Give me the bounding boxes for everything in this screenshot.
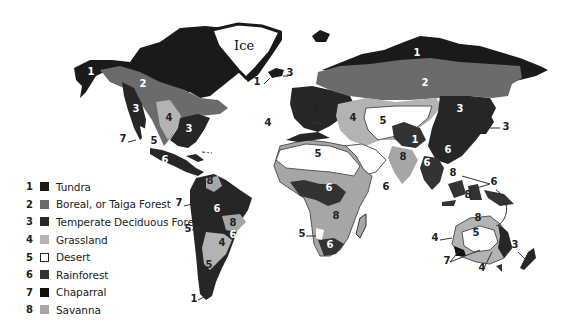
legend-label: Temperate Deciduous Forest: [56, 216, 203, 228]
region-label: 5: [315, 148, 322, 159]
legend-item: 8Savanna: [26, 301, 203, 319]
iceland: [268, 68, 284, 78]
region-label: 3: [186, 123, 193, 134]
region-label: 6: [205, 146, 212, 157]
legend-label: Grassland: [56, 234, 108, 246]
region-label: 6: [327, 239, 334, 250]
legend-number: 1: [26, 181, 40, 192]
madagascar: [356, 214, 366, 238]
legend-swatch: [40, 305, 49, 314]
region-label: 3: [313, 103, 320, 114]
region-label: 8: [465, 189, 472, 200]
region-label: 4: [350, 112, 357, 123]
region-label: 5: [380, 115, 387, 126]
region-label: 8: [450, 167, 457, 178]
region-label: 3: [287, 67, 294, 78]
region-label: 1: [412, 134, 419, 145]
region-label: 6: [491, 176, 498, 187]
legend-label: Tundra: [56, 181, 91, 193]
legend-swatch: [40, 200, 49, 209]
legend: 1Tundra2Boreal, or Taiga Forest3Temperat…: [26, 178, 203, 319]
legend-number: 7: [26, 287, 40, 298]
region-label: 5: [473, 227, 480, 238]
legend-item: 1Tundra: [26, 178, 203, 196]
legend-swatch: [40, 182, 49, 191]
indonesia-1: [448, 180, 466, 198]
indonesia-3: [442, 200, 456, 206]
legend-number: 5: [26, 252, 40, 263]
legend-number: 3: [26, 216, 40, 227]
region-label: 8: [333, 210, 340, 221]
legend-item: 3Temperate Deciduous Forest: [26, 213, 203, 231]
region-label: 4: [479, 262, 486, 273]
region-label: 6: [230, 229, 237, 240]
region-label: 3: [457, 103, 464, 114]
ice-label: Ice: [234, 38, 254, 53]
legend-number: 8: [26, 304, 40, 315]
legend-item: 2Boreal, or Taiga Forest: [26, 196, 203, 214]
new-zealand: [520, 248, 536, 270]
legend-item: 6Rainforest: [26, 266, 203, 284]
region-label: 6: [162, 154, 169, 165]
legend-label: Savanna: [56, 304, 101, 316]
australia-desert: [462, 226, 498, 252]
legend-item: 5Desert: [26, 248, 203, 266]
region-label: 4: [219, 237, 226, 248]
legend-label: Boreal, or Taiga Forest: [56, 198, 171, 210]
legend-swatch: [40, 217, 49, 226]
legend-swatch: [40, 235, 49, 244]
region-label: 6: [383, 181, 390, 192]
region-label: 7: [120, 133, 127, 144]
tasmania: [496, 264, 502, 272]
region-label: 5: [206, 259, 213, 270]
legend-swatch: [40, 270, 49, 279]
region-label: 6: [424, 157, 431, 168]
region-label: 3: [133, 103, 140, 114]
region-label: 8: [475, 212, 482, 223]
region-label: 1: [254, 76, 261, 87]
region-label: 8: [400, 151, 407, 162]
legend-swatch: [40, 253, 49, 262]
legend-item: 4Grassland: [26, 231, 203, 249]
caribbean: [186, 154, 204, 162]
region-label: 4: [432, 232, 439, 243]
region-label: 2: [422, 77, 429, 88]
svalbard: [312, 30, 330, 42]
legend-label: Desert: [56, 251, 90, 263]
region-label: 6: [214, 203, 221, 214]
legend-number: 6: [26, 269, 40, 280]
region-label: 3: [503, 121, 510, 132]
region-label: 4: [265, 117, 272, 128]
central-america: [150, 148, 204, 176]
legend-label: Rainforest: [56, 269, 108, 281]
region-label: 4: [166, 112, 173, 123]
region-label: 5: [299, 228, 306, 239]
legend-item: 7Chaparral: [26, 284, 203, 302]
legend-number: 2: [26, 199, 40, 210]
region-label: 6: [326, 182, 333, 193]
region-label: 1: [414, 47, 421, 58]
region-label: 1: [88, 66, 95, 77]
region-label: 3: [512, 239, 519, 250]
region-label: 8: [230, 217, 237, 228]
region-label: 5: [151, 135, 158, 146]
legend-swatch: [40, 288, 49, 297]
region-label: 8: [207, 175, 214, 186]
north-africa-coast: [286, 132, 330, 142]
region-label: 6: [445, 144, 452, 155]
region-label: 2: [140, 78, 147, 89]
legend-number: 4: [26, 234, 40, 245]
region-label: 7: [444, 255, 451, 266]
legend-label: Chaparral: [56, 286, 106, 298]
